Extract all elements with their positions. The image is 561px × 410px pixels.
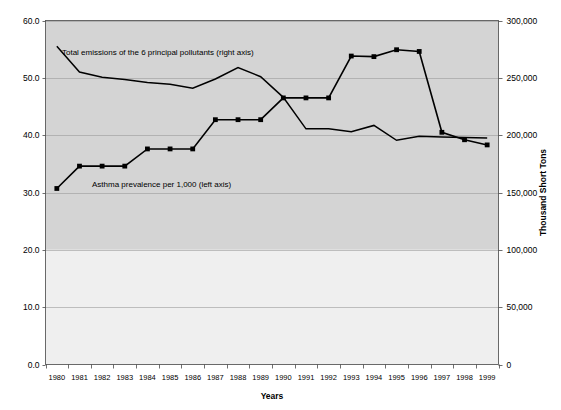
x-tick-label: 1980 (48, 373, 65, 382)
data-point-marker (122, 164, 127, 169)
x-tick-label: 1995 (388, 373, 405, 382)
data-point-marker (145, 147, 150, 152)
y2-tick-label: 50,000 (507, 302, 533, 312)
dual-axis-line-chart: 0.010.020.030.040.050.060.0 050,000100,0… (0, 0, 561, 410)
x-tick-label: 1988 (230, 373, 247, 382)
data-point-marker (439, 130, 444, 135)
x-tick-label: 1993 (343, 373, 360, 382)
y2-axis-title: Thousand Short Tons (538, 149, 548, 236)
data-point-marker (462, 137, 467, 142)
y-tick-label: 10.0 (23, 302, 40, 312)
annotation-emissions: Total emissions of the 6 principal pollu… (62, 48, 254, 57)
data-point-marker (190, 147, 195, 152)
plot-background-lower (46, 250, 499, 365)
x-tick-label: 1983 (116, 373, 133, 382)
x-axis: 1980198119821983198419851986198719881989… (47, 365, 500, 382)
data-point-marker (168, 147, 173, 152)
x-tick-label: 1991 (298, 373, 315, 382)
data-point-marker (213, 117, 218, 122)
data-point-marker (100, 164, 105, 169)
x-tick-label: 1999 (479, 373, 496, 382)
annotation-asthma: Asthma prevalence per 1,000 (left axis) (92, 180, 232, 189)
x-tick-label: 1986 (184, 373, 201, 382)
x-tick-label: 1997 (434, 373, 451, 382)
data-point-marker (54, 186, 59, 191)
x-tick-label: 1982 (94, 373, 111, 382)
x-tick-label: 1992 (320, 373, 337, 382)
x-axis-title: Years (261, 391, 284, 401)
y-tick-label: 20.0 (23, 245, 40, 255)
x-tick-label: 1990 (275, 373, 292, 382)
data-point-marker (281, 96, 286, 101)
left-axis: 0.010.020.030.040.050.060.0 (23, 16, 46, 370)
data-point-marker (258, 117, 263, 122)
y2-tick-label: 200,000 (507, 130, 538, 140)
data-point-marker (326, 96, 331, 101)
chart-container: 0.010.020.030.040.050.060.0 050,000100,0… (0, 0, 561, 410)
y2-tick-label: 250,000 (507, 73, 538, 83)
y-tick-label: 60.0 (23, 16, 40, 26)
y2-tick-label: 300,000 (507, 16, 538, 26)
data-point-marker (77, 164, 82, 169)
x-tick-label: 1981 (71, 373, 88, 382)
x-tick-label: 1985 (162, 373, 179, 382)
x-tick-label: 1987 (207, 373, 224, 382)
data-point-marker (304, 96, 309, 101)
y2-tick-label: 150,000 (507, 188, 538, 198)
y-tick-label: 0.0 (28, 360, 40, 370)
x-tick-label: 1996 (411, 373, 428, 382)
y-tick-label: 50.0 (23, 73, 40, 83)
x-tick-label: 1994 (366, 373, 383, 382)
y2-tick-label: 100,000 (507, 245, 538, 255)
y-tick-label: 30.0 (23, 188, 40, 198)
data-point-marker (236, 117, 241, 122)
data-point-marker (485, 143, 490, 148)
data-point-marker (372, 54, 377, 59)
y-tick-label: 40.0 (23, 130, 40, 140)
x-tick-label: 1984 (139, 373, 156, 382)
data-point-marker (349, 54, 354, 59)
data-point-marker (394, 47, 399, 52)
y2-tick-label: 0 (507, 360, 512, 370)
x-tick-label: 1989 (252, 373, 269, 382)
right-axis: 050,000100,000150,000200,000250,000300,0… (499, 16, 538, 370)
x-tick-label: 1998 (456, 373, 473, 382)
data-point-marker (417, 49, 422, 54)
